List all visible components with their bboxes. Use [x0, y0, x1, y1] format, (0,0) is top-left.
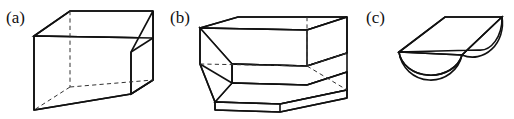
- panel-label-c: (c): [366, 9, 385, 26]
- geometric-solids-illustration: [0, 0, 514, 119]
- shape-b-stepped-block: [200, 17, 347, 112]
- panel-label-b: (b): [170, 9, 190, 26]
- panel-label-a: (a): [6, 9, 25, 26]
- shape-a-truncated-prism: [34, 11, 153, 110]
- shape-c-half-cylinder: [399, 17, 502, 80]
- figure-panel: (a) (b) (c): [0, 0, 514, 119]
